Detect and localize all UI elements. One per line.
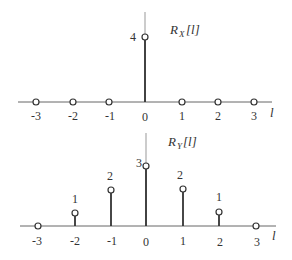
bottom-tick-3: 3 <box>254 235 260 249</box>
top-title-arg: [l] <box>186 22 200 37</box>
top-tick--1: -1 <box>105 109 115 123</box>
bottom-marker--2 <box>72 210 78 216</box>
stem-plots: 4 -3 -2 -1 0 1 2 3 l R X [l] <box>0 0 292 260</box>
bottom-marker-3 <box>253 223 259 229</box>
bottom-title-main: R <box>167 134 176 149</box>
top-marker-0 <box>142 34 148 40</box>
top-value-label: 4 <box>130 30 136 44</box>
bottom-tick--3: -3 <box>32 234 42 248</box>
top-title-sub: X <box>178 29 185 39</box>
bottom-marker-2 <box>216 209 222 215</box>
bottom-tick-0: 0 <box>143 235 149 249</box>
bottom-value-label--1: 2 <box>107 169 113 183</box>
top-marker-3 <box>251 99 257 105</box>
top-marker-1 <box>179 99 185 105</box>
bottom-title-arg: [l] <box>183 134 197 149</box>
top-title-main: R <box>169 22 178 37</box>
bottom-value-label-0: 3 <box>136 156 142 170</box>
top-tick-3: 3 <box>251 109 257 123</box>
bottom-marker--1 <box>108 187 114 193</box>
top-tick-2: 2 <box>215 109 221 123</box>
top-tick--2: -2 <box>68 109 78 123</box>
top-marker-2 <box>215 99 221 105</box>
bottom-tick-1: 1 <box>180 234 186 248</box>
bottom-value-label--2: 1 <box>72 192 78 206</box>
bottom-marker-1 <box>180 186 186 192</box>
bottom-axis-label: l <box>272 228 276 243</box>
top-marker--1 <box>106 99 112 105</box>
bottom-plot: 1 2 3 2 1 -3 -2 -1 0 1 2 3 l R Y [l] <box>20 133 276 249</box>
bottom-value-label-1: 2 <box>177 168 183 182</box>
top-axis-label: l <box>270 105 274 120</box>
top-marker--2 <box>70 99 76 105</box>
bottom-tick--1: -1 <box>107 234 117 248</box>
top-tick-0: 0 <box>142 110 148 124</box>
top-tick--3: -3 <box>31 109 41 123</box>
bottom-tick--2: -2 <box>70 234 80 248</box>
top-tick-1: 1 <box>179 109 185 123</box>
bottom-marker--3 <box>35 223 41 229</box>
bottom-tick-2: 2 <box>217 235 223 249</box>
top-plot: 4 -3 -2 -1 0 1 2 3 l R X [l] <box>18 12 274 124</box>
bottom-value-label-2: 1 <box>216 190 222 204</box>
top-marker--3 <box>33 99 39 105</box>
bottom-marker-0 <box>143 163 149 169</box>
